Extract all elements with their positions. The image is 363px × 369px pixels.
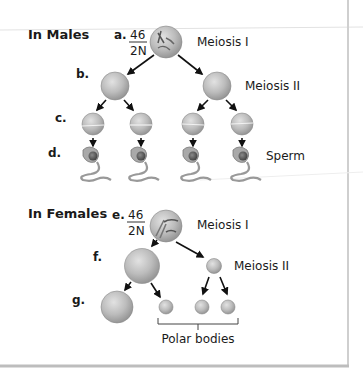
cell-b-left xyxy=(101,72,129,100)
males-heading: In Males xyxy=(28,27,90,42)
polar-bodies-label: Polar bodies xyxy=(161,332,234,346)
sperm-cells xyxy=(81,147,261,181)
meiosis-diagram: In Males a. 46 2N Meiosis I b. Meiosis I… xyxy=(0,0,363,369)
sperm-label: Sperm xyxy=(266,149,305,163)
label-c: c. xyxy=(55,111,67,125)
ploidy-e: 2N xyxy=(128,224,145,238)
parent-cell-e xyxy=(150,210,182,242)
males-meiosis1-label: Meiosis I xyxy=(197,35,249,49)
label-b: b. xyxy=(76,67,89,81)
cell-f-secondary-oocyte xyxy=(125,249,160,284)
females-heading: In Females xyxy=(28,206,107,221)
cell-b-right xyxy=(203,72,231,100)
females-meiosis2-label: Meiosis II xyxy=(234,259,289,273)
males-meiosis2-label: Meiosis II xyxy=(245,79,300,93)
label-f: f. xyxy=(93,250,102,264)
label-a: a. xyxy=(114,28,127,42)
polar-body-2 xyxy=(195,300,209,314)
page-borders xyxy=(0,0,363,366)
chromosome-count-e: 46 xyxy=(128,208,143,222)
diagram-canvas: In Males a. 46 2N Meiosis I b. Meiosis I… xyxy=(0,0,363,369)
parent-cell-a xyxy=(150,26,182,58)
males-section: In Males a. 46 2N Meiosis I b. Meiosis I… xyxy=(28,26,305,181)
spermatids-c xyxy=(82,113,253,135)
chromosome-count-a: 46 xyxy=(130,28,145,42)
cell-g-ovum xyxy=(101,291,133,323)
females-meiosis1-label: Meiosis I xyxy=(197,218,249,232)
polar-body-1 xyxy=(159,300,173,314)
label-d: d. xyxy=(48,146,61,160)
label-g: g. xyxy=(72,293,85,307)
polar-body-3 xyxy=(221,300,235,314)
ploidy-a: 2N xyxy=(130,44,147,58)
females-section: In Females e. 46 2N Meiosis I f. Meiosis… xyxy=(28,206,289,346)
polar-bodies-bracket xyxy=(158,318,238,330)
label-e: e. xyxy=(112,208,125,222)
cell-first-polar-body xyxy=(207,259,222,274)
